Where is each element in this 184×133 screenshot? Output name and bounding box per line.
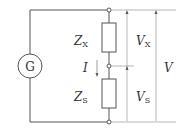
zs-label: ZS <box>73 90 88 105</box>
circuit-diagram: G ZX ZS I VX VS V <box>0 0 184 133</box>
v-arrowhead-icon <box>155 10 158 14</box>
v-label: V <box>164 61 174 75</box>
vx-label: VX <box>136 34 151 49</box>
impedance-zx <box>102 23 116 52</box>
vx-arrowhead-icon <box>126 10 129 14</box>
vs-label: VS <box>136 90 150 105</box>
generator-label: G <box>25 60 35 74</box>
zx-label: ZX <box>73 34 88 49</box>
terminal-bottom <box>107 120 111 124</box>
terminal-middle <box>107 64 111 68</box>
impedance-zs <box>102 79 116 108</box>
generator: G <box>18 54 42 78</box>
terminal-top <box>107 8 111 12</box>
current-label: I <box>82 61 88 75</box>
vs-arrowhead-icon <box>126 66 129 70</box>
